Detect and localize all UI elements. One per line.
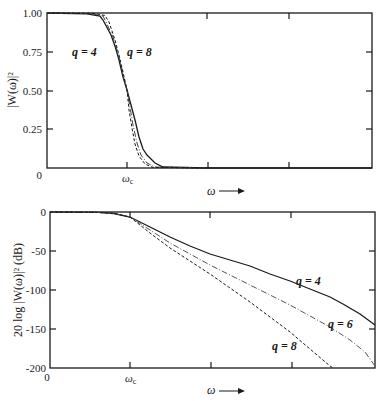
top-ytick-0: 0 (37, 169, 43, 181)
top-x-label: ω (207, 184, 215, 198)
figure: 1.00 0.75 0.50 0.25 0 ωc ω |W(ω)|² q = 4… (0, 0, 383, 401)
bottom-plot: 0 -50 -100 -150 -200 0 ωc ω 20 log |W(ω)… (11, 206, 375, 397)
bottom-ytick-m50: -50 (31, 245, 46, 257)
bottom-xtick-0: 0 (44, 371, 50, 383)
bottom-ytick-m150: -150 (26, 323, 47, 335)
bottom-ytick-0: 0 (41, 206, 47, 218)
top-ytick-025: 0.25 (23, 123, 43, 135)
bottom-annot-q8: q = 8 (272, 339, 297, 353)
bottom-ytick-m100: -100 (26, 284, 47, 296)
top-curve-q8 (47, 13, 207, 168)
top-y-label: |W(ω)|² (5, 72, 19, 108)
bottom-x-arrow-icon (219, 388, 245, 394)
bottom-plot-frame (50, 212, 375, 368)
bottom-annot-q6: q = 6 (328, 317, 353, 331)
bottom-annot-q4: q = 4 (296, 274, 321, 288)
bottom-curve-q6 (50, 212, 375, 366)
top-y-ticks (47, 13, 372, 168)
bottom-y-label: 20 log |W(ω)|² (dB) (11, 243, 25, 337)
top-ytick-100: 1.00 (23, 7, 43, 19)
bottom-xtick-wc: ωc (125, 372, 137, 386)
top-ytick-075: 0.75 (23, 46, 43, 58)
top-annot-q4: q = 4 (72, 45, 97, 59)
top-annot-q8: q = 8 (127, 45, 152, 59)
top-plot-frame (47, 13, 372, 168)
bottom-curve-q4 (50, 212, 375, 325)
top-x-arrow-icon (219, 188, 245, 194)
bottom-ticks (50, 212, 375, 368)
bottom-x-label: ω (207, 383, 215, 397)
top-curve-q4 (47, 13, 372, 168)
top-plot: 1.00 0.75 0.50 0.25 0 ωc ω |W(ω)|² q = 4… (5, 7, 372, 198)
top-ytick-050: 0.50 (23, 85, 43, 97)
top-xtick-wc: ωc (122, 172, 134, 186)
